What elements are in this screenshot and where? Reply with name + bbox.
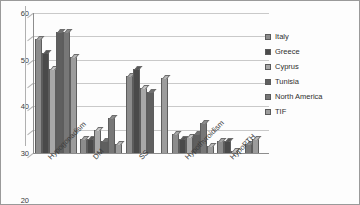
bar[interactable] <box>217 141 224 153</box>
legend-label: Tunisia <box>275 77 299 86</box>
legend-label: Cyprus <box>275 62 299 71</box>
legend-label: Greece <box>275 47 300 56</box>
bar-group <box>124 13 170 153</box>
bar-group <box>79 13 125 153</box>
bar-slot <box>115 144 122 153</box>
y-axis-tick-label: 30 <box>21 149 29 158</box>
legend-item[interactable]: TIF <box>265 104 353 119</box>
bar-slot <box>35 39 42 153</box>
legend-swatch-icon <box>265 79 271 85</box>
bar-slot <box>172 134 179 153</box>
bar[interactable] <box>126 76 133 153</box>
legend-item[interactable]: North America <box>265 89 353 104</box>
legend: ItalyGreeceCyprusTunisiaNorth AmericaTIF <box>265 29 353 119</box>
legend-label: North America <box>275 92 323 101</box>
bar[interactable] <box>161 78 168 153</box>
bar-slot <box>80 139 87 153</box>
legend-swatch-icon <box>265 109 271 115</box>
y-axis-back-line <box>25 6 26 146</box>
legend-label: Italy <box>275 32 289 41</box>
bar-slot <box>207 146 214 153</box>
bar-slot <box>217 141 224 153</box>
legend-item[interactable]: Greece <box>265 44 353 59</box>
bar[interactable] <box>207 146 214 153</box>
bar-slot <box>126 76 133 153</box>
bar[interactable] <box>35 39 42 153</box>
bar[interactable] <box>133 69 140 153</box>
legend-item[interactable]: Italy <box>265 29 353 44</box>
bar[interactable] <box>42 53 49 153</box>
bar[interactable] <box>80 139 87 153</box>
legend-swatch-icon <box>265 49 271 55</box>
bar-slot <box>42 53 49 153</box>
legend-label: TIF <box>275 107 286 116</box>
bar-slot <box>140 88 147 153</box>
bar-slot <box>161 78 168 153</box>
bar[interactable] <box>56 32 63 153</box>
bar-group <box>215 13 261 153</box>
bar[interactable] <box>147 92 154 153</box>
bar-slot <box>133 69 140 153</box>
bar[interactable] <box>115 144 122 153</box>
bar-slot <box>147 92 154 153</box>
y-axis-tick-label: 20 <box>21 195 29 204</box>
bar[interactable] <box>179 139 186 153</box>
bar-slot <box>49 69 56 153</box>
bar[interactable] <box>108 118 115 153</box>
legend-swatch-icon <box>265 94 271 100</box>
legend-item[interactable]: Tunisia <box>265 74 353 89</box>
bar[interactable] <box>172 134 179 153</box>
legend-swatch-icon <box>265 64 271 70</box>
bar-slot <box>56 32 63 153</box>
bar-slot <box>179 139 186 153</box>
legend-item[interactable]: Cyprus <box>265 59 353 74</box>
bar[interactable] <box>49 69 56 153</box>
bar-slot <box>108 118 115 153</box>
bar[interactable] <box>140 88 147 153</box>
category-axis-labels: HypogonadismDMSSHypothyroidismHypoPTH <box>33 153 261 203</box>
bar-chart: 0102030405060 HypogonadismDMSSHypothyroi… <box>0 0 360 205</box>
legend-swatch-icon <box>265 34 271 40</box>
